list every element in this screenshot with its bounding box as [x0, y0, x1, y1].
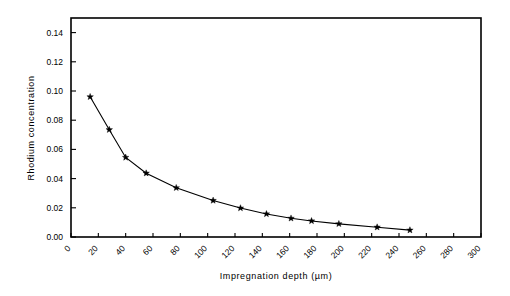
x-axis-title: Impregnation depth (µm) [220, 271, 333, 281]
x-tick-label: 100 [192, 243, 209, 260]
x-tick-label: 160 [274, 243, 291, 260]
x-tick-label: 280 [438, 243, 455, 260]
x-tick-label: 240 [383, 243, 400, 260]
x-axis-tick-labels: 0204060801001201401601802002202402602803… [62, 243, 483, 260]
y-axis-title: Rhodium concentration [26, 75, 36, 180]
data-point-marker [106, 126, 112, 132]
y-tick-label: 0.12 [46, 57, 63, 67]
y-tick-label: 0.14 [46, 28, 63, 38]
y-tick-label: 0.04 [46, 174, 63, 184]
data-point-marker [407, 227, 413, 233]
data-point-marker [237, 205, 243, 211]
data-point-marker [374, 224, 380, 230]
y-tick-label: 0.06 [46, 144, 63, 154]
chart-figure: 0204060801001201401601802002202402602803… [0, 0, 510, 296]
data-point-marker [143, 170, 149, 176]
y-tick-label: 0.00 [46, 232, 63, 242]
y-tick-label: 0.10 [46, 86, 63, 96]
plot-frame [71, 18, 481, 237]
data-point-marker [263, 211, 269, 217]
chart-plot-area: 0204060801001201401601802002202402602803… [0, 0, 510, 296]
data-point-marker [87, 93, 93, 99]
data-point-markers [87, 93, 413, 232]
x-tick-label: 200 [329, 243, 346, 260]
x-tick-label: 40 [113, 243, 127, 257]
y-tick-label: 0.08 [46, 115, 63, 125]
x-tick-label: 20 [86, 243, 100, 257]
x-tick-label: 220 [356, 243, 373, 260]
x-tick-label: 80 [168, 243, 182, 257]
x-tick-label: 180 [301, 243, 318, 260]
x-tick-label: 0 [62, 243, 73, 254]
data-point-marker [210, 197, 216, 203]
y-tick-label: 0.02 [46, 203, 63, 213]
x-tick-label: 60 [141, 243, 155, 257]
x-tick-label: 120 [219, 243, 236, 260]
data-point-marker [308, 218, 314, 224]
y-axis-tick-labels: 0.000.020.040.060.080.100.120.14 [46, 28, 63, 242]
data-point-marker [173, 184, 179, 190]
x-tick-label: 260 [411, 243, 428, 260]
data-point-marker [288, 215, 294, 221]
x-tick-label: 140 [247, 243, 264, 260]
data-point-marker [336, 220, 342, 226]
data-series-line [90, 97, 410, 230]
x-tick-label: 300 [465, 243, 482, 260]
